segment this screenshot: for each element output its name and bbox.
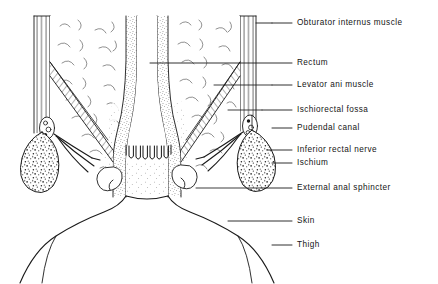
anatomy-figure: Obturator internus muscle Rectum Levator… xyxy=(0,0,438,284)
label-pudendal-canal: Pudendal canal xyxy=(297,124,360,132)
label-layer: Obturator internus muscle Rectum Levator… xyxy=(0,0,438,284)
label-external-anal-sphincter: External anal sphincter xyxy=(297,184,391,192)
label-levator-ani-muscle: Levator ani muscle xyxy=(297,81,374,89)
label-skin: Skin xyxy=(297,217,315,225)
label-ischiorectal-fossa: Ischiorectal fossa xyxy=(297,106,368,114)
label-inferior-rectal-nerve: Inferior rectal nerve xyxy=(297,146,377,154)
label-obturator-internus-muscle: Obturator internus muscle xyxy=(297,19,402,27)
label-rectum: Rectum xyxy=(297,59,328,67)
label-ischium: Ischium xyxy=(297,159,328,167)
label-thigh: Thigh xyxy=(297,241,320,249)
